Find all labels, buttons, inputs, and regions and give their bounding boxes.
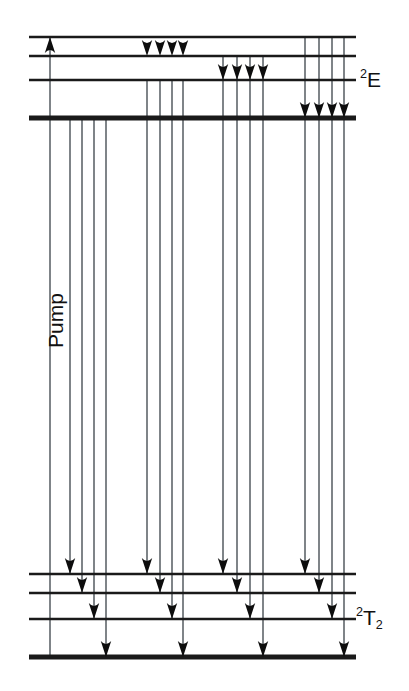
label-superscript: 2 (356, 605, 363, 619)
relaxation-arrow-down-icon-g1-4 (178, 40, 188, 56)
state-label-upper-manifold: 2E (360, 68, 381, 90)
relaxation-arrow-down-icon-g1-2 (155, 40, 165, 56)
label-base: T (363, 606, 376, 629)
state-label-lower-manifold: 2T2 (356, 606, 383, 631)
transition-lines-group (50, 37, 344, 657)
pump-axis-label: Pump (44, 293, 65, 348)
relaxation-arrow-down-icon-g1-1 (142, 40, 152, 56)
label-base: E (367, 68, 381, 91)
arrowheads-group (45, 37, 349, 657)
energy-level-diagram: 2E 2T2 Pump (0, 0, 409, 691)
relaxation-arrow-down-icon-g1-3 (167, 40, 177, 56)
label-subscript: 2 (376, 618, 383, 632)
label-superscript: 2 (360, 67, 367, 81)
